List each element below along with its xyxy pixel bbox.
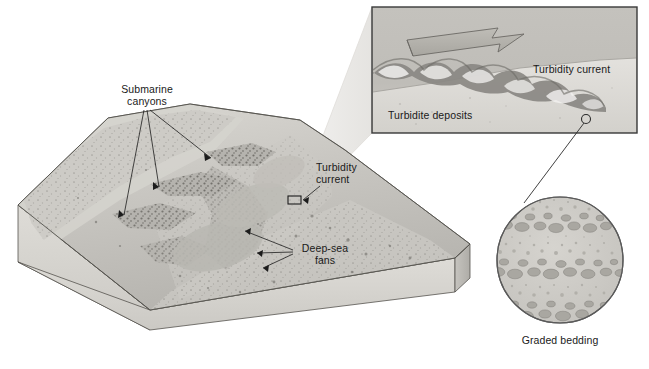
sample-point-marker[interactable]	[582, 115, 591, 124]
leader-lines-block	[124, 110, 320, 268]
block-right-face	[455, 244, 470, 292]
submarine-canyon-group	[112, 143, 276, 270]
block-top-outline	[18, 104, 470, 310]
block-front-face	[18, 205, 150, 330]
leader-arrowheads	[118, 153, 309, 272]
submarine-canyon-3	[112, 203, 196, 230]
canyon-trunk-channel	[196, 166, 268, 270]
block-top-surface	[18, 104, 470, 310]
graded-bed-middle	[486, 259, 625, 279]
graded-bed-top-fine	[497, 193, 605, 211]
deep-sea-fan-group	[167, 149, 309, 281]
shelf-break	[24, 110, 236, 244]
graded-bedding-circle	[497, 197, 623, 323]
block-front-face-main	[18, 258, 455, 330]
zoom-region-marker[interactable]	[288, 196, 301, 204]
label-submarine-canyons: Submarine canyons	[104, 84, 190, 107]
seafloor-texture	[150, 130, 400, 300]
graded-bedding-circle-outline	[497, 197, 623, 323]
deep-sea-fan-2	[211, 174, 295, 236]
plain-debris	[77, 169, 411, 293]
label-graded-bedding: Graded bedding	[500, 335, 620, 347]
submarine-canyon-1	[206, 143, 276, 166]
graded-bed-middle-fine	[493, 235, 614, 255]
deep-sea-fan-3	[249, 149, 310, 195]
flow-direction-arrow	[407, 28, 524, 56]
graded-bed-top	[494, 213, 612, 233]
continental-shelf	[18, 104, 250, 240]
bedding-connector-line	[524, 123, 584, 203]
submarine-canyon-4	[140, 236, 212, 266]
graded-bed-layers	[486, 193, 625, 321]
seafloor-block-diagram	[18, 104, 470, 330]
label-turbidity-current-block: Turbidity current	[316, 162, 382, 185]
graded-bedding-inset	[486, 193, 625, 323]
label-turbidity-current-inset: Turbidity current	[533, 64, 643, 76]
figure-root: Submarine canyons Turbidity current Deep…	[0, 0, 649, 369]
graded-bed-bottom-fine	[499, 284, 605, 297]
deep-sea-fan-1	[167, 211, 268, 281]
submarine-canyon-2	[150, 172, 238, 196]
label-deep-sea-fans: Deep-sea fans	[295, 243, 355, 266]
label-turbidite-deposits: Turbidite deposits	[388, 110, 508, 122]
graded-bed-bottom	[494, 301, 608, 321]
